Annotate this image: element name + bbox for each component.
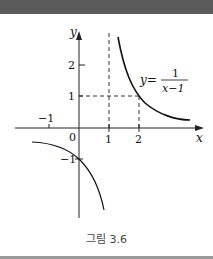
equation-lhs: y= (139, 73, 157, 87)
y-axis-label: y (69, 25, 77, 39)
figure-caption: 그림 3.6 (0, 230, 213, 246)
y-tick-label-2: 2 (68, 59, 75, 72)
x-axis-label: x (196, 131, 203, 145)
x-tick-label-neg1: −1 (38, 112, 54, 125)
y-axis-arrow-icon (76, 31, 82, 40)
equation-numerator: 1 (172, 67, 179, 80)
hyperbola-graph: y x 0 −1 1 2 2 1 −1 y= 1 x−1 (0, 0, 213, 259)
x-tick-label-2: 2 (135, 133, 142, 146)
origin-label: 0 (69, 131, 76, 144)
y-tick-label-neg1: −1 (60, 153, 76, 166)
y-tick-label-1: 1 (68, 90, 75, 103)
x-tick-label-1: 1 (105, 133, 112, 146)
equation-denominator: x−1 (162, 82, 184, 95)
